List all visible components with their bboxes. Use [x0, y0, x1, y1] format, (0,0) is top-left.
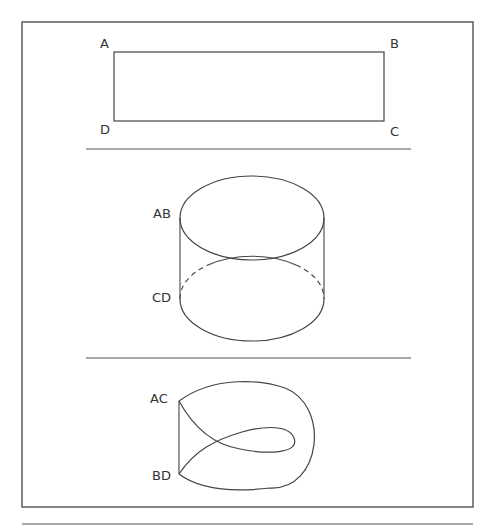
label-a: A	[100, 36, 109, 51]
label-ab: AB	[153, 206, 171, 221]
twisted-surface-panel: AC BD	[150, 382, 314, 490]
label-bd: BD	[152, 468, 171, 483]
cylinder-bottom-back-right	[296, 265, 324, 299]
label-d: D	[100, 122, 110, 137]
twist-outer-curve	[179, 382, 314, 490]
label-cd: CD	[152, 290, 171, 305]
cylinder-bottom-back-visible	[208, 256, 296, 265]
cylinder-top-ellipse	[180, 176, 324, 260]
rectangle-panel: A B D C	[100, 36, 399, 139]
cylinder-bottom-back-left	[180, 265, 208, 299]
cylinder-panel: AB CD	[152, 176, 324, 341]
label-ac: AC	[150, 391, 168, 406]
outer-frame	[22, 22, 473, 507]
cylinder-bottom-front	[180, 299, 324, 341]
label-c: C	[390, 124, 399, 139]
rectangle-shape	[114, 52, 384, 121]
twist-inner-loop	[179, 401, 295, 474]
label-b: B	[390, 36, 399, 51]
diagram-canvas: A B D C AB CD AC BD	[0, 0, 497, 528]
